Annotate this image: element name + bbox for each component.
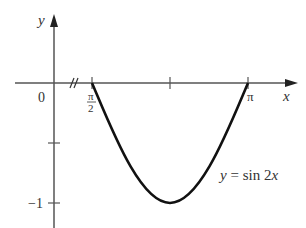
pi-half-numerator: π [88,90,94,102]
neg-one-label: −1 [28,196,43,211]
x-axis-label: x [282,88,290,104]
y-axis-arrow-icon [50,14,58,27]
y-axis-label: y [36,12,45,28]
origin-label: 0 [38,90,45,105]
sine-curve [92,83,248,203]
pi-half-denominator: 2 [88,102,94,114]
equation-label: y = sin 2x [218,167,278,183]
sine-graph: y x 0 π 2 π −1 y = sin 2x [0,0,306,228]
pi-label: π [247,89,254,104]
x-axis-arrow-icon [285,79,298,87]
